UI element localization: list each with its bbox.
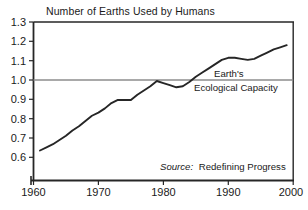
y-tick-label-0-8: 0.8 bbox=[11, 113, 26, 125]
x-tick-label-1980: 1980 bbox=[151, 186, 175, 198]
y-tick-label-1-0: 1.0 bbox=[11, 74, 26, 86]
y-tick-label-0-7: 0.7 bbox=[11, 132, 26, 144]
source-prefix: Source: bbox=[160, 161, 193, 172]
source-note: Source: Redefining Progress bbox=[160, 161, 286, 172]
x-tick-label-2000: 2000 bbox=[279, 186, 303, 198]
chart-background bbox=[0, 0, 308, 210]
reference-label-line-1: Earth's bbox=[214, 68, 244, 79]
x-tick-label-1990: 1990 bbox=[216, 186, 240, 198]
y-tick-label-1-2: 1.2 bbox=[11, 35, 26, 47]
figure-container: Number of Earths Used by Humans 1.3 1.2 … bbox=[0, 0, 308, 210]
reference-label-line-2: Ecological Capacity bbox=[194, 82, 278, 93]
y-tick-label-1-1: 1.1 bbox=[11, 55, 26, 67]
x-tick-label-1960: 1960 bbox=[21, 186, 45, 198]
y-tick-label-1-3: 1.3 bbox=[11, 16, 26, 28]
earths-used-line-chart: Number of Earths Used by Humans 1.3 1.2 … bbox=[0, 0, 308, 210]
y-tick-label-0-9: 0.9 bbox=[11, 93, 26, 105]
source-value: Redefining Progress bbox=[199, 161, 286, 172]
x-tick-label-1970: 1970 bbox=[86, 186, 110, 198]
y-tick-label-0-6: 0.6 bbox=[11, 151, 26, 163]
chart-title: Number of Earths Used by Humans bbox=[46, 5, 215, 17]
